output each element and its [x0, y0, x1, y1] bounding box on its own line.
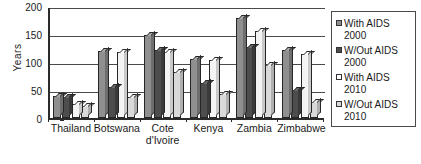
bar-side-face [115, 83, 119, 116]
legend-item[interactable]: W/Out AIDS 2000 [336, 45, 412, 68]
x-tick-label: Kenya [186, 122, 232, 134]
bar [108, 87, 116, 118]
bar [236, 18, 244, 118]
x-tick-mark [186, 118, 187, 122]
x-tick-mark [231, 118, 232, 122]
bar-side-face [226, 90, 230, 116]
x-tick-mark [140, 118, 141, 122]
x-tick-label: Cote d'Ivoire [140, 122, 186, 146]
legend-swatch-with-aids-2010-icon [336, 74, 342, 80]
bar-group [233, 6, 279, 118]
bar-side-face [243, 14, 247, 116]
legend-swatch-without-aids-2010-icon [336, 101, 342, 107]
legend-item[interactable]: W/Out AIDS 2010 [336, 99, 412, 122]
bar-side-face [170, 48, 174, 116]
y-tick-mark [60, 120, 64, 121]
legend-label: W/Out AIDS 2000 [344, 45, 398, 68]
bar-side-face [207, 79, 211, 116]
legend-label: With AIDS 2000 [344, 18, 390, 41]
bar-side-face [262, 27, 266, 116]
y-tick-label: 100 [25, 59, 42, 69]
bars-layer [50, 6, 325, 118]
bar [190, 59, 198, 118]
bar-side-face [151, 31, 155, 116]
bar [173, 72, 181, 118]
bar [282, 50, 290, 118]
x-tick-label: Zambia [231, 122, 277, 134]
bar-side-face [180, 68, 184, 116]
gridline [50, 8, 325, 9]
x-tick-mark [94, 118, 95, 122]
x-tick-label: Thailand [48, 122, 94, 134]
bar [53, 96, 61, 118]
x-tick-mark [277, 118, 278, 122]
legend-item[interactable]: With AIDS 2000 [336, 18, 412, 41]
bar-side-face [317, 98, 321, 116]
bar-side-face [105, 47, 109, 116]
bar-side-face [60, 92, 64, 116]
legend-swatch-with-aids-2000-icon [336, 20, 342, 26]
bar-side-face [216, 56, 220, 116]
bar-side-face [289, 46, 293, 116]
bar-side-face [271, 61, 275, 116]
bar-side-face [252, 43, 256, 116]
bar [154, 50, 162, 118]
x-tick-mark [48, 118, 49, 122]
bar-chart: Years 050100150200 ThailandBotswanaCote … [0, 0, 421, 164]
plot-area [48, 8, 323, 120]
bar-group [142, 6, 188, 118]
x-tick-label: Zimbabwe [277, 122, 323, 134]
bar-side-face [134, 93, 138, 116]
bar-side-face [124, 48, 128, 116]
bar [127, 97, 135, 118]
y-tick-label: 0 [36, 115, 42, 125]
bar-side-face [88, 102, 92, 116]
x-axis-tick-labels: ThailandBotswanaCote d'IvoireKenyaZambia… [48, 122, 323, 162]
y-tick-label: 50 [31, 87, 42, 97]
legend-label: W/Out AIDS 2010 [344, 99, 398, 122]
bar-group [50, 6, 96, 118]
chart-legend: With AIDS 2000W/Out AIDS 2000With AIDS 2… [331, 11, 416, 127]
bar [144, 35, 152, 118]
bar-group [96, 6, 142, 118]
x-tick-label: Botswana [94, 122, 140, 134]
bar-side-face [308, 50, 312, 116]
bar [98, 51, 106, 118]
bar-group [188, 6, 234, 118]
y-axis-tick-labels: 050100150200 [16, 8, 42, 120]
y-tick-label: 150 [25, 31, 42, 41]
bar-side-face [197, 55, 201, 116]
bar-side-face [161, 46, 165, 116]
legend-item[interactable]: With AIDS 2010 [336, 72, 412, 95]
bar-side-face [298, 86, 302, 116]
legend-swatch-without-aids-2000-icon [336, 47, 342, 53]
legend-label: With AIDS 2010 [344, 72, 390, 95]
y-tick-label: 200 [25, 3, 42, 13]
gridline [50, 36, 325, 37]
x-tick-mark [323, 118, 324, 122]
bar-group [279, 6, 325, 118]
